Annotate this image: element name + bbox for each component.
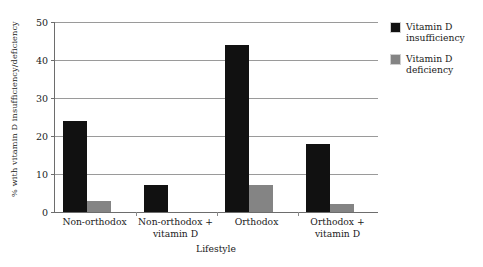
bar-insufficiency: [63, 121, 87, 212]
caption-residue: [0, 0, 483, 9]
bar-chart-figure: % with vitamin D insufficiency/deficienc…: [0, 0, 483, 267]
bar-group: [217, 22, 298, 212]
legend-item: Vitamin D insufficiency: [390, 21, 465, 43]
bar-deficiency: [249, 185, 273, 212]
bar-deficiency: [330, 204, 354, 212]
plot-area: 01020304050: [54, 22, 378, 212]
bar-group: [298, 22, 379, 212]
legend-swatch-icon: [390, 54, 401, 65]
category-label: Orthodox + vitamin D: [285, 216, 390, 239]
legend-label: Vitamin D insufficiency: [406, 21, 465, 43]
bar-group: [136, 22, 217, 212]
y-tick-label: 40: [36, 55, 48, 66]
y-tick-label: 50: [36, 17, 48, 28]
y-axis-title: % with vitamin D insufficiency/deficienc…: [9, 0, 19, 219]
legend-label: Vitamin D deficiency: [406, 53, 453, 75]
legend-swatch-icon: [390, 22, 401, 33]
bar-group: [55, 22, 136, 212]
chart-legend: Vitamin D insufficiencyVitamin D deficie…: [390, 21, 465, 85]
bar-insufficiency: [306, 144, 330, 212]
y-tick-mark-0: [51, 212, 55, 213]
y-tick-label: 20: [36, 131, 48, 142]
y-tick-label: 10: [36, 169, 48, 180]
y-tick-label: 30: [36, 93, 48, 104]
bar-insufficiency: [225, 45, 249, 212]
bar-insufficiency: [144, 185, 168, 212]
bars-layer: [55, 22, 378, 212]
legend-item: Vitamin D deficiency: [390, 53, 465, 75]
bar-deficiency: [87, 201, 111, 212]
x-axis-title: Lifestyle: [54, 243, 378, 254]
